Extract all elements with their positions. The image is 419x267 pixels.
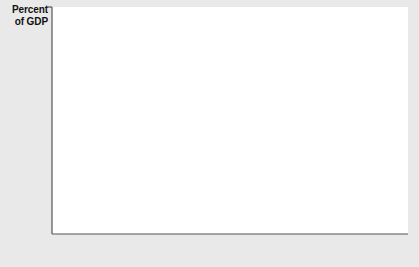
chart-figure: Percent of GDP <box>0 0 419 267</box>
axes-group <box>47 7 408 234</box>
chart-canvas <box>0 0 419 267</box>
